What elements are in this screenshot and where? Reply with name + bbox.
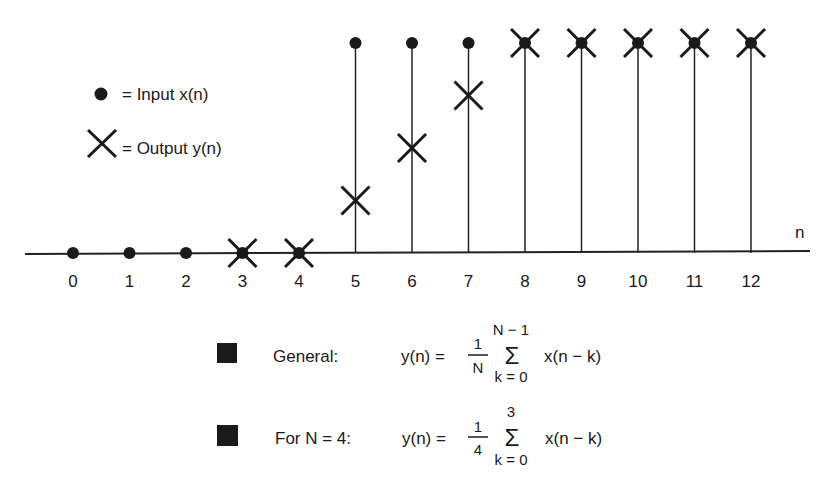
input-dot-icon xyxy=(350,37,362,49)
input-dot-icon xyxy=(124,247,136,259)
axis-label-n: n xyxy=(795,223,804,242)
frac-den: 4 xyxy=(474,441,482,458)
frac-num: 1 xyxy=(474,335,482,352)
input-dot-icon xyxy=(180,247,192,259)
tick-label: 7 xyxy=(464,272,473,291)
tick-label: 4 xyxy=(294,272,303,291)
formula-label: General: xyxy=(273,347,338,366)
sigma-icon: Σ xyxy=(505,424,520,451)
legend: = Input x(n) = Output y(n) xyxy=(88,85,222,158)
sum-upper: N − 1 xyxy=(493,321,529,338)
input-dot-icon xyxy=(95,88,108,101)
tick-label: 9 xyxy=(577,272,586,291)
bullet-square-icon xyxy=(217,425,238,446)
tick-label: 10 xyxy=(629,272,648,291)
bullet-square-icon xyxy=(217,343,237,363)
formula-term: x(n − k) xyxy=(544,347,601,366)
sigma-icon: Σ xyxy=(505,342,520,369)
sum-lower: k = 0 xyxy=(495,451,528,468)
formula-general: General: y(n) = 1 N N − 1 Σ k = 0 x(n − … xyxy=(217,321,601,385)
tick-label: 1 xyxy=(125,272,134,291)
tick-label: 5 xyxy=(351,272,360,291)
frac-den: N xyxy=(473,359,484,376)
formula-term: x(n − k) xyxy=(545,429,602,448)
input-dot-icon xyxy=(67,247,79,259)
x-axis xyxy=(25,251,810,254)
formula-label: For N = 4: xyxy=(275,429,351,448)
sum-lower: k = 0 xyxy=(495,368,528,385)
tick-label: 12 xyxy=(742,272,761,291)
formula-n4: For N = 4: y(n) = 1 4 3 Σ k = 0 x(n − k) xyxy=(217,403,602,468)
output-markers xyxy=(229,29,766,267)
formula-lhs: y(n) = xyxy=(401,347,445,366)
tick-label: 6 xyxy=(407,272,416,291)
input-dot-icon xyxy=(463,37,475,49)
tick-label: 8 xyxy=(520,272,529,291)
tick-label: 11 xyxy=(686,272,704,291)
moving-average-diagram: n 0123456789101112 = Input x(n) = Output… xyxy=(0,0,834,491)
sum-upper: 3 xyxy=(507,403,515,420)
input-dot-icon xyxy=(406,37,418,49)
tick-label: 2 xyxy=(181,272,190,291)
legend-output-label: = Output y(n) xyxy=(122,139,222,158)
stems xyxy=(356,43,752,253)
tick-label: 0 xyxy=(68,272,77,291)
tick-labels: 0123456789101112 xyxy=(68,272,760,291)
formula-lhs: y(n) = xyxy=(402,429,446,448)
output-x-icon xyxy=(88,130,116,157)
tick-label: 3 xyxy=(238,272,247,291)
legend-input-label: = Input x(n) xyxy=(122,85,208,104)
frac-num: 1 xyxy=(474,418,482,435)
